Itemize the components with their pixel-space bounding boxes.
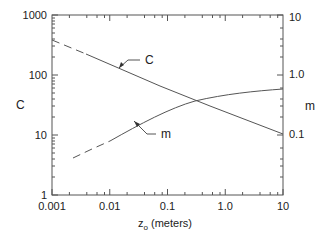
chart: C m 1000 100 10 1 10 1.0 0.1 0.001 0.01 … (0, 0, 323, 236)
y-tick-100: 100 (29, 69, 47, 81)
x-tick-10: 10 (277, 200, 289, 212)
arrowhead-c-icon (119, 62, 124, 68)
x-axis-title: zo (meters) (138, 217, 192, 232)
x-tick-1: 1.0 (218, 200, 233, 212)
y-axis-title: C (16, 98, 25, 112)
curve-c-dashed (52, 40, 86, 54)
bottom-x-ticks (52, 189, 283, 195)
y2-tick-0-1: 0.1 (289, 128, 304, 140)
x-axis-title-unit: (meters) (148, 217, 192, 229)
curve-label-c: C (145, 53, 154, 67)
y2-tick-10: 10 (289, 11, 301, 23)
y2-tick-1: 1.0 (289, 68, 304, 80)
top-x-ticks (69, 15, 277, 21)
y2-axis-title: m (305, 99, 315, 113)
curve-label-m: m (161, 127, 171, 141)
curve-m (110, 89, 283, 141)
y-tick-10: 10 (35, 129, 47, 141)
x-tick-0-01: 0.01 (99, 200, 120, 212)
curve-m-dashed (73, 141, 110, 158)
x-tick-0-1: 0.1 (160, 200, 175, 212)
y-tick-1000: 1000 (23, 9, 47, 21)
plot-frame (52, 15, 283, 195)
right-y-ticks (277, 15, 283, 177)
curve-c (86, 54, 283, 134)
x-tick-0-001: 0.001 (38, 200, 66, 212)
